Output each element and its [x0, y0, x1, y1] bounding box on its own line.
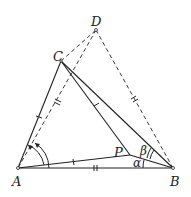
segment-CP	[61, 61, 130, 155]
segment-DB	[96, 30, 173, 168]
label-B: B	[169, 174, 180, 189]
segment-AC	[18, 61, 61, 168]
label-C: C	[53, 49, 63, 64]
single-tick-marks	[36, 103, 99, 165]
angle-arrowheads-A	[28, 143, 40, 150]
label-P: P	[113, 145, 123, 160]
double-tick-marks	[54, 96, 138, 171]
point-A-marker	[17, 167, 20, 170]
label-beta: β	[139, 144, 147, 158]
point-B-marker	[172, 167, 175, 170]
label-alpha: α	[133, 156, 141, 170]
label-D: D	[90, 14, 102, 29]
segment-CD	[61, 30, 96, 61]
label-A: A	[11, 174, 21, 189]
geometry-diagram: A B C D P α β	[0, 0, 191, 197]
